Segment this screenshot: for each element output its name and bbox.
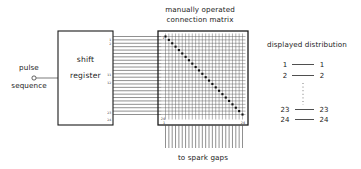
matrix-connection-dot[interactable] <box>231 103 233 105</box>
legend-pair-0-left: 1 <box>283 61 287 69</box>
matrix-connection-dot[interactable] <box>228 100 230 102</box>
diagram-root: pulse sequence shift register 1 2 11 12 … <box>0 0 361 169</box>
sequence-label: sequence <box>11 81 47 90</box>
matrix-title: manually operated connection matrix <box>165 5 235 24</box>
matrix-grid <box>162 34 246 120</box>
matrix-connection-dot[interactable] <box>225 96 227 98</box>
matrix-connection-dot[interactable] <box>164 35 166 37</box>
pulse-label: pulse <box>19 63 39 72</box>
block-diagram: pulse sequence shift register 1 2 11 12 … <box>0 0 361 169</box>
matrix-title-line2: connection matrix <box>166 15 234 24</box>
spark-gap-wires <box>166 126 243 149</box>
matrix-axis-origin: 1 <box>163 121 165 125</box>
matrix-connection-dot[interactable] <box>238 110 240 112</box>
tap-label-2: 2 <box>109 42 111 46</box>
legend-pair-2-right: 23 <box>320 106 329 114</box>
legend-pair-3-right: 24 <box>320 116 329 124</box>
legend-title: displayed distribution <box>267 40 347 49</box>
tap-label-11: 11 <box>107 73 111 77</box>
pulse-sequence-input: pulse sequence <box>11 63 58 90</box>
matrix-connection-dot[interactable] <box>185 56 187 58</box>
shift-register-block: shift register 1 2 11 12 23 24 <box>58 31 113 125</box>
matrix-connection-dot[interactable] <box>201 73 203 75</box>
matrix-connection-dot[interactable] <box>188 59 190 61</box>
matrix-corner-bottom-left: 24 <box>161 117 165 121</box>
matrix-connection-dot[interactable] <box>221 93 223 95</box>
matrix-connection-dot[interactable] <box>208 80 210 82</box>
matrix-connection-dot[interactable] <box>218 90 220 92</box>
tap-label-24: 24 <box>107 118 111 122</box>
matrix-connection-dots[interactable] <box>164 35 243 115</box>
matrix-connection-dot[interactable] <box>191 63 193 65</box>
matrix-connection-dot[interactable] <box>205 76 207 78</box>
legend-pair-1-left: 2 <box>283 72 287 80</box>
shift-register-label-line2: register <box>70 71 102 80</box>
matrix-title-line1: manually operated <box>165 5 235 14</box>
matrix-connection-dot[interactable] <box>178 49 180 51</box>
legend-pair-2-left: 23 <box>281 106 290 114</box>
matrix-connection-dot[interactable] <box>211 83 213 85</box>
matrix-connection-dot[interactable] <box>181 52 183 54</box>
matrix-connection-dot[interactable] <box>198 69 200 71</box>
tap-label-23: 23 <box>107 111 111 115</box>
matrix-connection-dot[interactable] <box>168 39 170 41</box>
matrix-connection-dot[interactable] <box>195 66 197 68</box>
matrix-corner-bottom-right: 24 <box>241 121 245 125</box>
spark-gap-output: to spark gaps <box>166 126 243 163</box>
shift-register-label-line1: shift <box>77 55 94 64</box>
matrix-connection-dot[interactable] <box>235 107 237 109</box>
tap-label-12: 12 <box>107 81 111 85</box>
connection-matrix[interactable]: 1 24 1 24 <box>158 31 248 125</box>
circle-terminal-icon <box>32 76 36 80</box>
matrix-corner-top-left: 1 <box>162 36 164 40</box>
register-to-matrix-bus <box>113 37 162 115</box>
legend-pair-1-right: 2 <box>320 72 324 80</box>
matrix-connection-dot[interactable] <box>215 86 217 88</box>
spark-gaps-label: to spark gaps <box>178 153 228 162</box>
matrix-connection-dot[interactable] <box>174 46 176 48</box>
legend-pair-3-left: 24 <box>281 116 290 124</box>
matrix-connection-dot[interactable] <box>241 113 243 115</box>
legend-pair-0-right: 1 <box>320 61 324 69</box>
matrix-connection-dot[interactable] <box>171 42 173 44</box>
displayed-distribution-legend: displayed distribution 1 1 2 2 23 23 24 … <box>267 40 347 124</box>
